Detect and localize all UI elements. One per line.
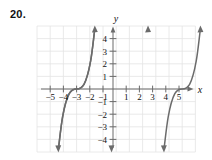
x-tick-label: −4 <box>59 92 69 102</box>
x-axis-label: x <box>197 84 203 95</box>
curve-arrowhead-right2-bottom <box>161 145 167 152</box>
x-tick-label: 2 <box>137 92 142 102</box>
x-tick-label: −3 <box>72 92 82 102</box>
x-tick-label: 4 <box>164 92 169 102</box>
y-axis-arrowhead <box>111 27 116 33</box>
x-tick-label: 3 <box>150 92 155 102</box>
y-axis-label: y <box>113 13 119 24</box>
x-tick-label: 5 <box>177 92 182 102</box>
y-tick-label: 4 <box>103 34 108 44</box>
graph-figure: [data-name="curve-branch-right"], [data-… <box>0 0 212 160</box>
y-tick-label: −2 <box>97 110 107 120</box>
curve-arrowhead-middle-top <box>145 26 151 33</box>
curve-arrowhead-middle-bottom <box>109 145 115 152</box>
y-tick-label: −1 <box>97 97 107 107</box>
x-tick-label: −5 <box>45 92 55 102</box>
x-axis-arrowhead <box>188 87 194 92</box>
x-tick-label: −2 <box>85 92 95 102</box>
x-tick-labels: −5 −4 −3 −2 −1 1 2 3 4 5 <box>45 92 181 102</box>
y-tick-label: −4 <box>97 135 107 145</box>
y-tick-label: 1 <box>103 72 108 82</box>
x-tick-label: 1 <box>124 92 129 102</box>
curve-arrowhead-right2-top <box>198 26 204 33</box>
y-tick-label: 2 <box>103 59 108 69</box>
y-tick-label: −3 <box>97 122 107 132</box>
y-tick-label: 3 <box>103 47 108 57</box>
